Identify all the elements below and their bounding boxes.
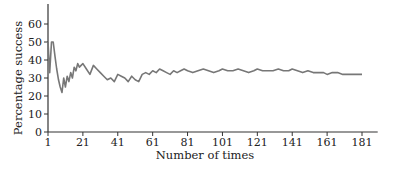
x-tick-label: 1 bbox=[45, 136, 52, 149]
x-axis-ticks: 121416181101121141161181 bbox=[45, 132, 373, 149]
y-tick-label: 20 bbox=[28, 90, 42, 103]
y-tick-label: 60 bbox=[28, 18, 42, 31]
x-tick-label: 21 bbox=[76, 136, 90, 149]
y-tick-label: 40 bbox=[28, 54, 42, 67]
series-line bbox=[48, 42, 362, 92]
y-axis-title: Percentage success bbox=[11, 21, 25, 135]
y-tick-label: 30 bbox=[28, 72, 42, 85]
line-chart: 0102030405060 121416181101121141161181 N… bbox=[0, 0, 396, 170]
x-tick-label: 181 bbox=[352, 136, 373, 149]
x-tick-label: 161 bbox=[317, 136, 338, 149]
y-axis-ticks: 0102030405060 bbox=[28, 18, 48, 139]
y-tick-label: 10 bbox=[28, 108, 42, 121]
x-tick-label: 141 bbox=[282, 136, 303, 149]
y-tick-label: 50 bbox=[28, 36, 42, 49]
x-axis-title: Number of times bbox=[156, 148, 255, 162]
x-tick-label: 41 bbox=[111, 136, 125, 149]
y-tick-label: 0 bbox=[35, 126, 42, 139]
